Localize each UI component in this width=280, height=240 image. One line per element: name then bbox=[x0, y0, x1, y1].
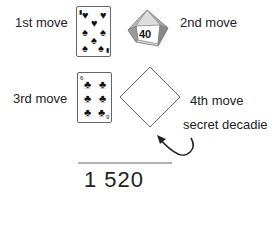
arrowhead-icon bbox=[157, 135, 166, 144]
curved-arrow-icon bbox=[160, 138, 193, 155]
secret-decadie-diamond bbox=[120, 67, 180, 127]
die-value: 40 bbox=[139, 28, 151, 40]
total-result: 1 520 bbox=[84, 167, 144, 193]
